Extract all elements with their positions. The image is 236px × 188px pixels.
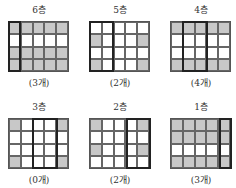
floor-label: 3층 bbox=[0, 102, 78, 112]
empty-cell bbox=[56, 34, 68, 46]
shaded-cell bbox=[33, 22, 45, 34]
empty-cell bbox=[9, 144, 21, 156]
shaded-cell bbox=[21, 22, 33, 34]
shaded-cell bbox=[90, 34, 102, 46]
count-caption: (0개) bbox=[0, 175, 78, 185]
shaded-cell bbox=[171, 131, 183, 143]
empty-cell bbox=[9, 34, 21, 46]
empty-cell bbox=[114, 131, 126, 143]
empty-cell bbox=[114, 47, 126, 59]
empty-cell bbox=[218, 47, 230, 59]
shaded-cell bbox=[206, 22, 218, 34]
shaded-cell bbox=[90, 119, 102, 131]
empty-cell bbox=[90, 156, 102, 168]
empty-cell bbox=[102, 22, 114, 34]
floor-label: 1층 bbox=[162, 102, 236, 112]
shaded-cell bbox=[9, 47, 21, 59]
empty-cell bbox=[33, 34, 45, 46]
shaded-cell bbox=[9, 22, 21, 34]
shaded-cell bbox=[195, 156, 207, 168]
floor-grid bbox=[8, 21, 69, 72]
empty-cell bbox=[137, 47, 149, 59]
shaded-cell bbox=[183, 156, 195, 168]
shaded-cell bbox=[90, 59, 102, 71]
shaded-cell bbox=[56, 47, 68, 59]
empty-cell bbox=[218, 144, 230, 156]
shaded-cell bbox=[9, 119, 21, 131]
empty-cell bbox=[114, 34, 126, 46]
floor-label: 4층 bbox=[162, 5, 236, 15]
shaded-cell bbox=[218, 131, 230, 143]
empty-cell bbox=[33, 119, 45, 131]
shaded-cell bbox=[137, 34, 149, 46]
count-caption: (2개) bbox=[81, 175, 159, 185]
count-caption: (3개) bbox=[0, 78, 78, 88]
floor-label: 5층 bbox=[81, 5, 159, 15]
empty-cell bbox=[125, 131, 137, 143]
empty-cell bbox=[195, 47, 207, 59]
floor-grid bbox=[170, 21, 231, 72]
empty-cell bbox=[171, 34, 183, 46]
empty-cell bbox=[33, 131, 45, 143]
shaded-cell bbox=[195, 131, 207, 143]
shaded-cell bbox=[56, 119, 68, 131]
empty-cell bbox=[90, 47, 102, 59]
empty-cell bbox=[114, 59, 126, 71]
empty-cell bbox=[9, 131, 21, 143]
floor-label: 2층 bbox=[81, 102, 159, 112]
empty-cell bbox=[218, 34, 230, 46]
shaded-cell bbox=[218, 119, 230, 131]
empty-cell bbox=[183, 47, 195, 59]
empty-cell bbox=[44, 156, 56, 168]
shaded-cell bbox=[195, 119, 207, 131]
floor-panel-6: 6층 (3개) bbox=[0, 0, 78, 94]
empty-cell bbox=[183, 144, 195, 156]
shaded-cell bbox=[33, 59, 45, 71]
shaded-cell bbox=[206, 119, 218, 131]
floor-label: 6층 bbox=[0, 5, 78, 15]
shaded-cell bbox=[21, 59, 33, 71]
empty-cell bbox=[21, 34, 33, 46]
shaded-cell bbox=[56, 22, 68, 34]
empty-cell bbox=[171, 144, 183, 156]
floor-grid bbox=[89, 118, 150, 169]
empty-cell bbox=[114, 22, 126, 34]
empty-cell bbox=[195, 144, 207, 156]
shaded-cell bbox=[137, 59, 149, 71]
shaded-cell bbox=[183, 22, 195, 34]
shaded-cell bbox=[21, 47, 33, 59]
shaded-cell bbox=[56, 156, 68, 168]
shaded-cell bbox=[183, 59, 195, 71]
floor-panel-3: 3층 (0개) bbox=[0, 97, 78, 188]
shaded-cell bbox=[9, 156, 21, 168]
empty-cell bbox=[44, 34, 56, 46]
empty-cell bbox=[125, 22, 137, 34]
count-caption: (4개) bbox=[162, 78, 236, 88]
shaded-cell bbox=[90, 144, 102, 156]
floor-panel-5: 5층 (2개) bbox=[81, 0, 159, 94]
floor-panel-2: 2층 (2개) bbox=[81, 97, 159, 188]
shaded-cell bbox=[9, 59, 21, 71]
shaded-cell bbox=[206, 156, 218, 168]
empty-cell bbox=[102, 59, 114, 71]
empty-cell bbox=[21, 131, 33, 143]
shaded-cell bbox=[183, 131, 195, 143]
shaded-cell bbox=[171, 119, 183, 131]
empty-cell bbox=[206, 34, 218, 46]
empty-cell bbox=[44, 131, 56, 143]
floor-grid bbox=[170, 118, 231, 169]
empty-cell bbox=[21, 119, 33, 131]
empty-cell bbox=[102, 119, 114, 131]
floor-panel-1: 1층 (3개) bbox=[162, 97, 236, 188]
empty-cell bbox=[125, 156, 137, 168]
empty-cell bbox=[21, 144, 33, 156]
shaded-cell bbox=[171, 22, 183, 34]
empty-cell bbox=[137, 22, 149, 34]
empty-cell bbox=[56, 131, 68, 143]
floor-grid bbox=[89, 21, 150, 72]
empty-cell bbox=[125, 59, 137, 71]
empty-cell bbox=[90, 131, 102, 143]
empty-cell bbox=[195, 34, 207, 46]
shaded-cell bbox=[218, 22, 230, 34]
count-caption: (2개) bbox=[81, 78, 159, 88]
